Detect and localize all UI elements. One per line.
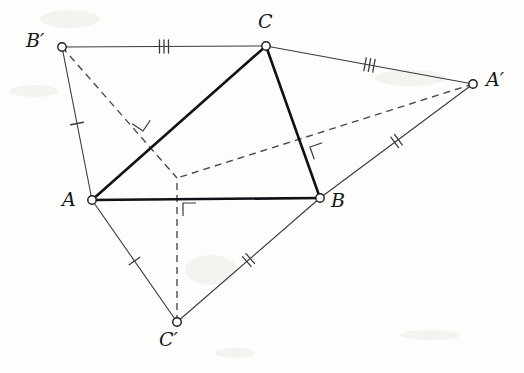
cevian-Bp-P <box>62 47 177 178</box>
bold-triangle-layer <box>92 46 320 200</box>
paper-texture-layer <box>10 10 460 358</box>
right-angle-on-AB <box>183 203 196 216</box>
vertex-label-C: C <box>258 12 273 31</box>
paper-smudge-3 <box>185 255 237 285</box>
right-angle-on-CA <box>132 113 150 131</box>
vertex-label-Ap: A′ <box>486 70 504 89</box>
thin-edges-layer <box>62 46 473 322</box>
edge-BC <box>266 46 320 198</box>
right-angle-on-AB-corner <box>183 203 196 216</box>
vertex-dot-B <box>316 194 324 202</box>
vertex-dot-A <box>88 196 96 204</box>
edge-CA <box>92 46 266 200</box>
tick-Cp-A-stroke-0 <box>129 257 140 264</box>
tick-marks-layer <box>71 40 403 266</box>
right-angle-on-BC-corner <box>310 143 327 160</box>
edge-Ap-B <box>320 84 473 198</box>
cevian-Ap-P <box>177 84 473 178</box>
vertex-label-Bp: B′ <box>26 31 44 50</box>
paper-smudge-5 <box>215 348 255 358</box>
paper-smudge-1 <box>10 85 58 97</box>
dashed-cevians-layer <box>62 47 473 322</box>
vertex-label-B: B <box>331 191 345 210</box>
right-angle-on-CA-corner <box>132 113 150 131</box>
right-angle-on-BC <box>310 143 327 160</box>
paper-smudge-4 <box>400 330 460 340</box>
vertex-label-A: A <box>62 190 76 209</box>
edge-AB <box>92 198 320 200</box>
tick-C-Ap <box>364 58 375 72</box>
vertex-label-Cp: C′ <box>159 330 178 349</box>
geometry-canvas <box>0 0 524 373</box>
tick-Cp-A <box>129 257 140 264</box>
vertex-dot-Ap <box>469 80 477 88</box>
vertex-dot-C <box>262 42 270 50</box>
geometry-figure: ABCA′B′C′ <box>0 0 524 373</box>
vertex-dot-Cp <box>173 318 181 326</box>
vertex-dot-Bp <box>58 43 66 51</box>
paper-smudge-0 <box>40 10 100 28</box>
